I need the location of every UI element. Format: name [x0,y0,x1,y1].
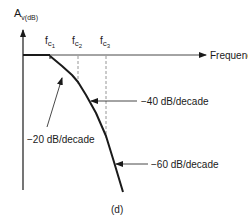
bode-plot-diagram: Av(dB) Frequency fc1 fc2 fc3 −20 dB/deca… [0,0,248,219]
fc3-label: fc3 [100,35,111,49]
slope-20-label: −20 dB/decade [27,134,95,145]
y-axis-label: Av(dB) [14,7,38,22]
slope-20-leader [47,78,62,127]
fc1-label: fc1 [45,35,56,49]
slope-40-label: −40 dB/decade [141,96,209,107]
slope-60-label: −60 dB/decade [151,159,219,170]
frequency-axis-label: Frequency [210,50,248,61]
fc2-label: fc2 [72,35,83,49]
figure-caption: (d) [111,204,123,215]
rolloff-curve [50,56,123,192]
